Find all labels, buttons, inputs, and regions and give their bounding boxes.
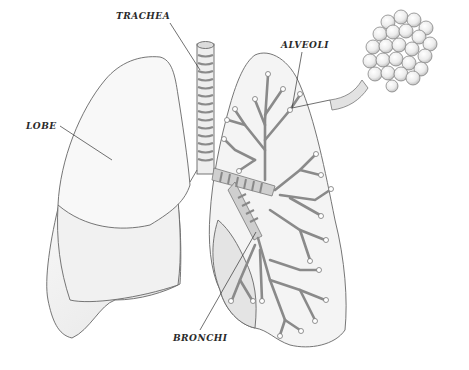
alveoli-cluster — [330, 10, 437, 110]
alveoli-duct — [330, 80, 368, 110]
right-lung-upper-lobe — [58, 57, 190, 228]
trachea-leader — [170, 23, 200, 70]
label-lobe: LOBE — [26, 121, 57, 131]
label-bronchi: BRONCHI — [173, 333, 228, 343]
label-trachea: TRACHEA — [116, 11, 170, 21]
right-lung — [47, 57, 190, 338]
label-alveoli: ALVEOLI — [281, 40, 329, 50]
lungs-diagram — [0, 0, 469, 370]
